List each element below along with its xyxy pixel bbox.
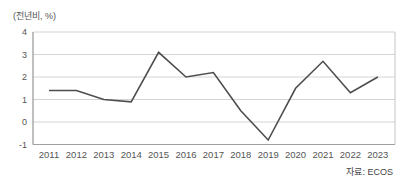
x-tick-label: 2020 [285,149,306,160]
x-tick-label: 2017 [203,149,224,160]
x-tick-label: 2019 [258,149,279,160]
y-tick-label: 4 [22,27,27,37]
x-tick-label: 2016 [175,149,196,160]
x-tick-label: 2013 [93,149,114,160]
line-chart: 43210-1201120122013201420152016201720182… [0,0,406,182]
y-tick-label: 0 [22,117,27,127]
x-tick-label: 2011 [39,149,59,160]
y-tick-label: 3 [22,50,27,60]
y-tick-label: -1 [19,140,27,150]
x-tick-label: 2012 [66,149,87,160]
x-tick-label: 2018 [230,149,251,160]
x-tick-label: 2022 [340,149,361,160]
x-tick-label: 2015 [148,149,169,160]
source-label: 자료: ECOS [346,165,393,178]
y-tick-label: 2 [22,72,27,82]
chart-container: (전년비, %) 43210-1201120122013201420152016… [0,0,406,182]
data-line-series [49,52,378,140]
x-tick-label: 2023 [367,149,388,160]
x-tick-label: 2021 [312,149,333,160]
y-tick-label: 1 [22,95,27,105]
x-tick-label: 2014 [121,149,142,160]
